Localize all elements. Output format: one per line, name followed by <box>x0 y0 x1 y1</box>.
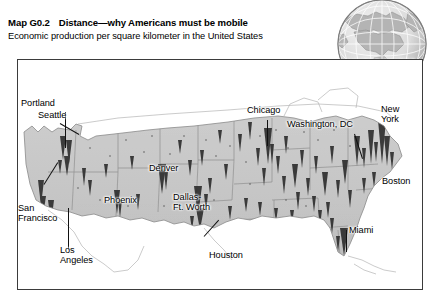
figure-subtitle: Economic production per square kilometer… <box>8 31 338 41</box>
map-label-los-angeles: Los Angeles <box>60 245 93 266</box>
map-label-san-francisco: San Francisco <box>18 203 57 224</box>
map-label-dallas-line1: Dallas- <box>173 192 210 202</box>
map-canvas: Portland Seattle San Francisco Los Angel… <box>18 60 422 289</box>
map-label-los-angeles-line1: Los <box>60 245 93 255</box>
map-label-new-york-line1: New <box>381 104 399 114</box>
map-label-houston: Houston <box>209 250 243 260</box>
map-label-miami: Miami <box>349 225 373 235</box>
map-label-dallas-ft-worth: Dallas- Ft. Worth <box>173 192 210 213</box>
leader-miami <box>346 230 347 252</box>
map-label-seattle: Seattle <box>38 110 66 120</box>
map-label-boston: Boston <box>382 176 410 186</box>
map-label-new-york-line2: York <box>381 114 399 124</box>
map-label-portland: Portland <box>21 98 55 108</box>
map-number: Map G0.2 <box>8 17 50 28</box>
figure-header: Map G0.2Distance—why Americans must be m… <box>8 17 338 41</box>
map-label-san-francisco-line2: Francisco <box>18 213 57 223</box>
figure-title-line: Map G0.2Distance—why Americans must be m… <box>8 17 338 28</box>
map-label-denver: Denver <box>149 163 178 173</box>
map-label-los-angeles-line2: Angeles <box>60 255 93 265</box>
map-label-san-francisco-line1: San <box>18 203 57 213</box>
map-label-washington-dc: Washington, DC <box>287 119 353 129</box>
page-title: Distance—why Americans must be mobile <box>59 17 248 28</box>
map-frame: Portland Seattle San Francisco Los Angel… <box>17 59 423 290</box>
map-label-phoenix: Phoenix <box>104 195 137 205</box>
figure-root: Map G0.2Distance—why Americans must be m… <box>0 0 438 294</box>
leader-chicago <box>267 120 268 146</box>
map-label-chicago: Chicago <box>247 105 280 115</box>
map-label-dallas-line2: Ft. Worth <box>173 202 210 212</box>
map-label-new-york: New York <box>381 104 399 125</box>
leader-los-angeles <box>68 208 69 250</box>
